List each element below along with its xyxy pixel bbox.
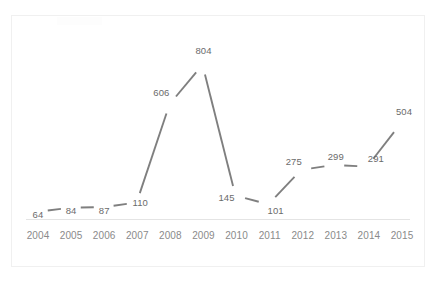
x-tick-label-2015: 2015 [391,231,414,241]
x-tick-label-2008: 2008 [159,231,182,241]
line-segment [275,177,294,197]
x-tick-label-2011: 2011 [259,231,281,241]
data-point-label: 110 [133,198,148,208]
x-tick-label-2014: 2014 [358,231,381,241]
line-segment [205,74,233,186]
line-segment [176,72,196,96]
x-tick-label-2006: 2006 [93,231,116,241]
data-point-label: 291 [368,154,384,164]
x-tick-label-2010: 2010 [225,231,248,241]
plot-area: 648487110606804145101275299291504 [12,16,424,266]
x-tick-label-2009: 2009 [192,231,215,241]
data-point-label: 84 [66,206,77,216]
line-segment [48,209,61,211]
data-point-label: 87 [99,206,110,216]
x-axis-line [26,219,410,220]
data-point-label: 145 [218,193,234,203]
data-point-label: 606 [153,88,169,98]
data-point-label: 101 [268,206,284,216]
line-segment [311,166,324,168]
x-tick-label-2005: 2005 [60,231,83,241]
line-segment [245,198,259,202]
data-point-label: 299 [328,152,344,162]
data-point-label: 275 [286,157,302,167]
data-series-line [12,16,424,266]
data-point-label: 804 [195,46,211,56]
line-segment [140,114,167,194]
data-point-label: 504 [396,107,412,117]
x-tick-label-2013: 2013 [324,231,347,241]
x-tick-label-2012: 2012 [291,231,314,241]
line-segment [344,165,357,166]
x-tick-label-2004: 2004 [27,231,50,241]
line-chart-figure: 648487110606804145101275299291504 200420… [11,15,425,267]
line-segment [114,204,127,206]
x-tick-label-2007: 2007 [126,231,149,241]
